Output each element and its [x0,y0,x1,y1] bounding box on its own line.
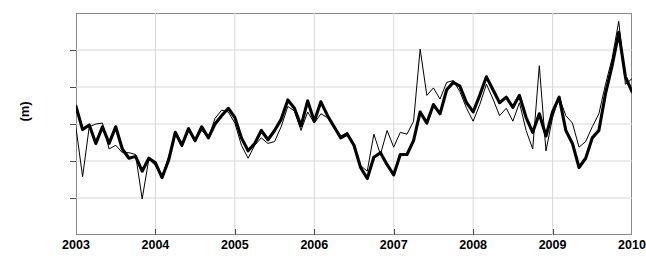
x-tick-mark [473,229,474,235]
y-tick-mark [70,124,76,125]
series-canvas [76,13,632,235]
x-tick-mark [235,229,236,235]
y-tick-mark [70,198,76,199]
x-tick-mark [155,229,156,235]
x-tick-label: 2010 [618,238,646,252]
x-tick-label: 2006 [300,238,328,252]
y-tick-mark [70,161,76,162]
x-tick-mark [553,229,554,235]
x-tick-mark [394,229,395,235]
y-tick-mark [70,50,76,51]
x-tick-label: 2004 [142,238,170,252]
y-axis-label: (m) [17,82,32,142]
x-tick-label: 2009 [539,238,567,252]
x-tick-label: 2003 [62,238,90,252]
x-tick-label: 2005 [221,238,249,252]
x-tick-label: 2008 [459,238,487,252]
y-tick-mark [70,87,76,88]
data-series-thick-series [76,32,632,178]
x-tick-label: 2007 [380,238,408,252]
plot-area [76,13,632,235]
x-tick-mark [314,229,315,235]
